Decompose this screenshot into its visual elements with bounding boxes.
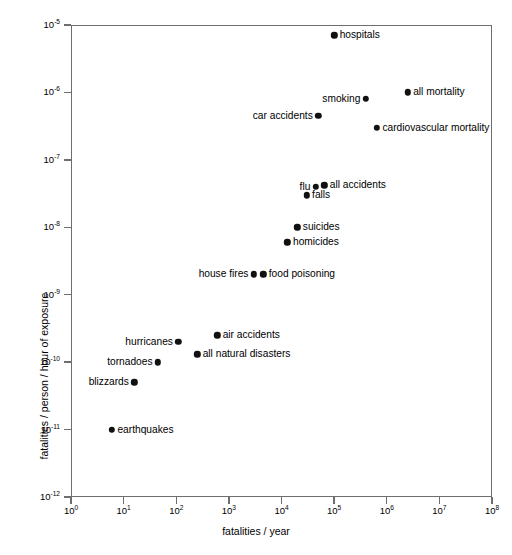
data-point-label: house fires (199, 269, 249, 279)
y-tick-5 (64, 361, 71, 362)
data-point-label: hospitals (340, 30, 380, 40)
data-point-label: flu (300, 182, 311, 192)
data-point-label: smoking (322, 94, 360, 104)
data-point-label: suicides (303, 222, 340, 232)
y-axis-title-host: fatalities / person / hour of exposure (14, 120, 36, 400)
x-tick-label-5: 105 (314, 506, 354, 516)
data-point-label: falls (312, 190, 330, 200)
x-tick-label-2: 102 (156, 506, 196, 516)
y-tick-label-2: 10-7 (44, 155, 60, 165)
chart-canvas: 10-510-610-710-810-910-1010-1110-12 1001… (0, 0, 512, 555)
x-tick-label-0: 100 (51, 506, 91, 516)
data-point-label: hurricanes (125, 337, 173, 347)
data-point-label: all mortality (413, 87, 465, 97)
y-tick-label-0: 10-5 (44, 20, 60, 30)
x-tick-0 (70, 497, 71, 504)
y-tick-6 (64, 429, 71, 430)
x-tick-label-1: 101 (104, 506, 144, 516)
data-point-label: blizzards (89, 377, 129, 387)
x-tick-1 (123, 497, 124, 504)
data-point-label: earthquakes (117, 424, 173, 434)
y-tick-label-1: 10-6 (44, 87, 60, 97)
y-tick-3 (64, 227, 71, 228)
data-point-label: all accidents (330, 180, 386, 190)
data-point-label: air accidents (223, 330, 280, 340)
y-axis-title: fatalities / person / hour of exposure (38, 236, 50, 516)
x-tick-label-6: 106 (367, 506, 407, 516)
data-point-label: homicides (293, 237, 339, 247)
data-point-label: car accidents (253, 111, 313, 121)
x-tick-8 (491, 497, 492, 504)
y-tick-0 (64, 24, 71, 25)
data-point-label: tornadoes (107, 357, 152, 367)
x-tick-2 (176, 497, 177, 504)
x-tick-6 (386, 497, 387, 504)
x-tick-label-4: 104 (262, 506, 302, 516)
data-point-label: all natural disasters (203, 349, 291, 359)
y-tick-2 (64, 159, 71, 160)
y-tick-1 (64, 92, 71, 93)
x-tick-4 (281, 497, 282, 504)
data-point-label: cardiovascular mortality (382, 123, 489, 133)
x-tick-label-8: 108 (472, 506, 512, 516)
x-axis-title: fatalities / year (0, 525, 512, 537)
x-tick-7 (439, 497, 440, 504)
x-tick-5 (333, 497, 334, 504)
data-point-label: food poisoning (269, 269, 335, 279)
y-tick-label-3: 10-8 (44, 222, 60, 232)
x-tick-label-7: 107 (419, 506, 459, 516)
x-tick-3 (228, 497, 229, 504)
x-tick-label-3: 103 (209, 506, 249, 516)
y-tick-4 (64, 294, 71, 295)
